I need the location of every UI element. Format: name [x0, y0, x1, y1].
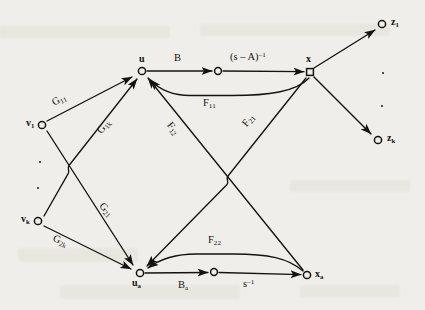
node-x[interactable]: [307, 69, 314, 76]
edge-label-F22: F22: [208, 235, 221, 247]
ellipsis-dot-z-1: [382, 72, 384, 74]
node-z1[interactable]: [378, 20, 385, 27]
node-vk[interactable]: [34, 217, 41, 224]
ellipsis-dot-v-1: [39, 161, 41, 163]
node-u[interactable]: [138, 67, 145, 74]
node-label-vk: vk: [21, 214, 30, 226]
edge-x-to-zk: [314, 77, 371, 134]
node-xa[interactable]: [303, 271, 310, 278]
edge-m1-to-x: [223, 71, 304, 72]
edge-label-F11: F11: [203, 98, 216, 110]
edge-ua-to-m2: [145, 273, 208, 274]
edge-x-to-z1: [314, 30, 375, 68]
node-mid-top[interactable]: [215, 68, 222, 75]
node-label-x: x: [306, 54, 311, 64]
edge-x-to-u: [150, 78, 309, 96]
signal-flow-graph: [0, 0, 425, 310]
edge-m2-to-xa: [219, 273, 301, 275]
edge-label-s-minus-A-inverse: (s – A)–1: [230, 52, 266, 63]
figure-canvas: v1 vk u ua x xa z1 zk G11 G1k G21 G2k B …: [0, 0, 425, 310]
node-label-zk: zk: [387, 133, 395, 145]
node-ua[interactable]: [136, 269, 143, 276]
node-v1[interactable]: [38, 121, 45, 128]
edge-label-Ba: Ba: [178, 280, 188, 292]
edge-label-B: B: [174, 53, 181, 64]
edge-xa-to-ua: [148, 254, 303, 271]
node-zk[interactable]: [374, 136, 381, 143]
node-label-v1: v1: [26, 118, 34, 130]
node-mid-bottom[interactable]: [211, 269, 218, 276]
ellipsis-dot-v-2: [37, 187, 39, 189]
edge-label-s-inverse: s–1: [243, 279, 254, 290]
ellipsis-dot-z-2: [381, 105, 383, 107]
node-label-u: u: [139, 54, 145, 64]
node-label-xa: xa: [315, 269, 323, 281]
node-label-z1: z1: [391, 17, 399, 29]
node-label-ua: ua: [132, 278, 141, 290]
